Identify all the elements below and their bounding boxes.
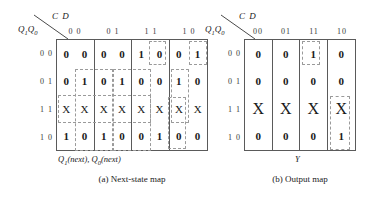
map-b-caption: (b) Output map <box>240 174 360 184</box>
map-a-cell-r3c3-q1: 0 <box>170 123 189 151</box>
map-a-cell-r3c2-q0: 1 <box>150 123 168 151</box>
map-a-cell-r1c0-q1: 0 <box>57 68 75 96</box>
map-a-column-10: 0 1 1 0 X X 0 0 <box>170 40 207 150</box>
map-a-cell-r2c3-q1: X <box>170 95 189 123</box>
figure-kmaps: Q1Q0 C D 0 0 0 1 1 1 1 0 0 0 0 1 1 1 1 0… <box>0 0 365 202</box>
map-a-row-label-2: 1 1 <box>20 95 53 123</box>
map-a-cell-r2c0-q0: X <box>75 95 93 123</box>
map-a-grid: 0 0 0 1 X X 1 0 0 0 <box>56 39 208 151</box>
map-a-cell-r1c3-q0: 0 <box>188 68 207 96</box>
map-b-cell-r0c3: 0 <box>328 40 355 68</box>
map-b-row-label-0: 0 0 <box>208 39 241 67</box>
map-a-col-label-1: 0 1 <box>94 27 132 36</box>
map-b-row-headers: 0 0 0 1 1 1 1 0 <box>208 39 241 151</box>
map-a-cell-r1c1-q0: 1 <box>113 68 131 96</box>
map-b-cell-r0c0: 0 <box>245 40 272 68</box>
map-a-cell-r2c2: X X <box>132 95 169 123</box>
map-a-cell-r0c1-q1: 0 <box>95 40 113 68</box>
map-a-cell-r3c0-q0: 0 <box>75 123 93 151</box>
map-a-row-headers: 0 0 0 1 1 1 1 0 <box>20 39 53 151</box>
map-b-column-10: 0 0 X 1 <box>328 40 355 150</box>
map-b-row-label-1: 0 1 <box>208 67 241 95</box>
map-a-cell-r3c3: 0 0 <box>170 123 207 151</box>
map-a-cell-r1c3-q1: 1 <box>170 68 189 96</box>
map-a-col-label-3: 1 0 <box>170 27 208 36</box>
map-b-column-00: 0 0 X 0 <box>245 40 273 150</box>
map-a-cell-r2c2-q0: X <box>150 95 168 123</box>
map-b-cell-r1c2: 0 <box>300 68 327 96</box>
map-b-col-label-3: 10 <box>328 27 356 36</box>
map-a-cell-r0c0: 0 0 <box>57 40 94 68</box>
map-a-cell-r1c0: 0 1 <box>57 68 94 96</box>
map-a-cell-r1c2-q1: 0 <box>132 68 150 96</box>
map-a-cell-r0c2-q0: 0 <box>150 40 168 68</box>
map-a-cell-r1c3: 1 0 <box>170 68 207 96</box>
map-b-col-label-2: 11 <box>300 27 328 36</box>
map-b-cell-r2c0: X <box>245 95 272 123</box>
map-a-cell-r3c0-q1: 1 <box>57 123 75 151</box>
map-a-cell-r3c2: 0 1 <box>132 123 169 151</box>
map-b-row-variable-label: Q1Q0 <box>205 25 225 37</box>
map-a-cell-r2c1-q1: X <box>95 95 113 123</box>
map-b-cell-r3c2: 0 <box>300 123 327 151</box>
map-b-cell-r0c1: 0 <box>273 40 300 68</box>
map-a-cell-r1c1-q1: 0 <box>95 68 113 96</box>
map-b-cell-r3c1: 0 <box>273 123 300 151</box>
map-b-column-01: 0 0 X 0 <box>273 40 301 150</box>
map-b-cell-r2c3: X <box>328 95 355 123</box>
map-a-cell-r0c0-q1: 0 <box>57 40 75 68</box>
map-b-cell-r3c3: 1 <box>328 123 355 151</box>
map-a-cell-r1c2: 0 0 <box>132 68 169 96</box>
map-a-cell-r1c1: 0 1 <box>95 68 132 96</box>
map-a-row-variable-label: Q1Q0 <box>18 25 38 37</box>
map-b-col-variable-label: C D <box>239 12 257 21</box>
map-a-cell-r2c2-q1: X <box>132 95 150 123</box>
map-a-cell-r0c3: 0 1 <box>170 40 207 68</box>
map-a-cell-r0c1-q0: 0 <box>113 40 131 68</box>
map-b-cell-r1c3: 0 <box>328 68 355 96</box>
map-a-cell-r3c1-q0: 0 <box>113 123 131 151</box>
map-a-column-headers: 0 0 0 1 1 1 1 0 <box>56 27 208 36</box>
map-b-grid: 0 0 X 0 0 0 X 0 1 0 X 0 0 0 X 1 <box>244 39 356 151</box>
map-b-cell-r2c1: X <box>273 95 300 123</box>
map-a-cell-r0c0-q0: 0 <box>75 40 93 68</box>
map-b-cell-r2c2: X <box>300 95 327 123</box>
map-a-col-label-0: 0 0 <box>56 27 94 36</box>
map-a-cell-r2c3: X X <box>170 95 207 123</box>
map-b-row-label-3: 1 0 <box>208 123 241 151</box>
map-a-column-11: 1 0 0 0 X X 0 1 <box>132 40 170 150</box>
map-a-row-label-3: 1 0 <box>20 123 53 151</box>
map-a-cell-r1c2-q0: 0 <box>150 68 168 96</box>
map-a-cell-r0c1: 0 0 <box>95 40 132 68</box>
map-a-caption: (a) Next-state map <box>56 174 208 184</box>
map-a-cell-r3c2-q1: 0 <box>132 123 150 151</box>
map-a-cell-r0c2: 1 0 <box>132 40 169 68</box>
map-a-cell-r0c3-q0: 1 <box>188 40 207 68</box>
map-b-cell-r1c1: 0 <box>273 68 300 96</box>
map-b-col-label-1: 01 <box>272 27 300 36</box>
map-a-row-label-0: 0 0 <box>20 39 53 67</box>
map-a-cell-r2c3-q0: X <box>188 95 207 123</box>
map-b-cell-r3c0: 0 <box>245 123 272 151</box>
map-a-column-00: 0 0 0 1 X X 1 0 <box>57 40 95 150</box>
map-a-cell-r3c1-q1: 1 <box>95 123 113 151</box>
map-a-cell-r2c1-q0: X <box>113 95 131 123</box>
map-a-cell-r2c0-q1: X <box>57 95 75 123</box>
map-b-axis-label: Y <box>295 154 300 164</box>
map-a-cell-r3c0: 1 0 <box>57 123 94 151</box>
map-b-col-label-0: 00 <box>244 27 272 36</box>
map-a-cell-r0c3-q1: 0 <box>170 40 189 68</box>
map-b-row-label-2: 1 1 <box>208 95 241 123</box>
map-a-axis-label: Q1(next), Q0(next) <box>58 154 121 166</box>
map-a-row-label-1: 0 1 <box>20 67 53 95</box>
map-a-col-label-2: 1 1 <box>132 27 170 36</box>
map-a-col-variable-label: C D <box>52 12 70 21</box>
map-a-cell-r2c1: X X <box>95 95 132 123</box>
map-b-column-11: 1 0 X 0 <box>300 40 328 150</box>
map-a-cell-r3c1: 1 0 <box>95 123 132 151</box>
map-b-column-headers: 00 01 11 10 <box>244 27 356 36</box>
map-a-cell-r0c2-q1: 1 <box>132 40 150 68</box>
map-b-cell-r0c2: 1 <box>300 40 327 68</box>
map-a-cell-r3c3-q0: 0 <box>188 123 207 151</box>
map-a-column-01: 0 0 0 1 X X 1 0 <box>95 40 133 150</box>
